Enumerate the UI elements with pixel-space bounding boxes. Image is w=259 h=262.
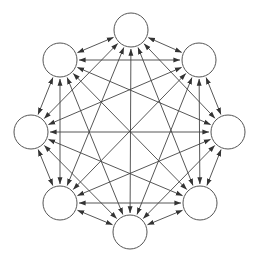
edge-n3-n4 <box>148 210 183 224</box>
graph-node-n2 <box>211 115 245 149</box>
edge-n2-n5 <box>78 139 211 195</box>
edge-n1-n2 <box>206 78 221 115</box>
graph-node-n3 <box>183 186 217 220</box>
graph-node-n5 <box>43 186 77 220</box>
edge-n0-n1 <box>148 38 181 53</box>
graph-node-n1 <box>182 43 216 77</box>
edge-n1-n3 <box>199 79 200 184</box>
edge-n0-n7 <box>78 37 114 52</box>
graph-node-n7 <box>43 43 77 77</box>
edge-n2-n3 <box>207 150 221 186</box>
edge-n5-n6 <box>38 150 53 186</box>
graph-node-n0 <box>114 13 148 47</box>
edge-n3-n6 <box>49 139 183 195</box>
graph-node-n6 <box>14 115 48 149</box>
complete-graph-diagram <box>0 0 259 262</box>
edge-n4-n7 <box>67 78 123 215</box>
graph-node-n4 <box>113 215 147 249</box>
edge-n4-n5 <box>78 210 113 224</box>
edge-n1-n4 <box>137 78 192 215</box>
edge-n6-n7 <box>38 78 53 115</box>
